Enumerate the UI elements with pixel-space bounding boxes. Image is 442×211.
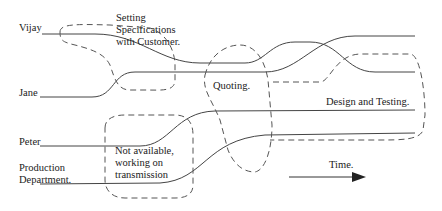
person-label-jane: Jane: [19, 87, 38, 99]
activity-setting-specifications: Setting Specifications with Customer.: [116, 12, 180, 48]
person-label-production: Production Department.: [19, 162, 71, 186]
person-label-peter: Peter: [19, 136, 41, 148]
quoting-region: [204, 45, 272, 172]
person-label-vijay: Vijay: [19, 22, 42, 34]
time-arrow-head: [352, 172, 366, 182]
vijay-timeline: [42, 34, 415, 72]
activity-not-available: Not available, working on transmission: [115, 145, 174, 181]
activity-quoting: Quoting.: [213, 80, 250, 92]
time-label: Time.: [329, 159, 353, 171]
activity-design-testing: Design and Testing.: [326, 96, 409, 108]
peter-timeline: [40, 110, 415, 146]
